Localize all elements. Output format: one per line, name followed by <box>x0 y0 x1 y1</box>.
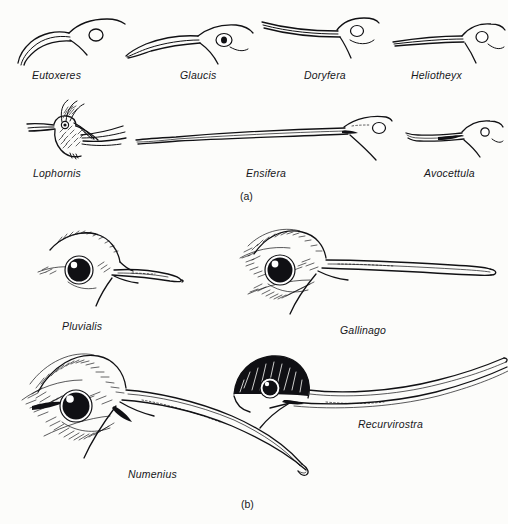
specimen-eutoxeres <box>12 8 132 66</box>
label-numenius: Numenius <box>128 468 177 480</box>
label-gallinago: Gallinago <box>340 324 386 336</box>
specimen-recurvirostra <box>222 352 508 446</box>
specimen-avocettula <box>404 114 504 162</box>
label-eutoxeres: Eutoxeres <box>32 69 81 81</box>
bird-bill-figure: Eutoxeres Glaucis <box>0 0 508 524</box>
label-lophornis: Lophornis <box>33 167 81 179</box>
label-pluvialis: Pluvialis <box>62 320 102 332</box>
panel-label-b: (b) <box>241 498 254 510</box>
specimen-glaucis <box>124 18 254 68</box>
specimen-doryfera <box>258 10 380 65</box>
label-ensifera: Ensifera <box>246 167 286 179</box>
label-heliotheyx: Heliotheyx <box>411 69 462 81</box>
label-doryfera: Doryfera <box>304 69 346 81</box>
label-avocettula: Avocettula <box>424 167 475 179</box>
specimen-lophornis <box>18 98 128 160</box>
panel-label-a: (a) <box>240 190 253 202</box>
specimen-pluvialis <box>28 228 188 310</box>
specimen-heliotheyx <box>388 18 506 70</box>
specimen-ensifera <box>134 112 392 164</box>
specimen-gallinago <box>232 222 500 322</box>
label-recurvirostra: Recurvirostra <box>358 418 423 430</box>
label-glaucis: Glaucis <box>180 69 216 81</box>
